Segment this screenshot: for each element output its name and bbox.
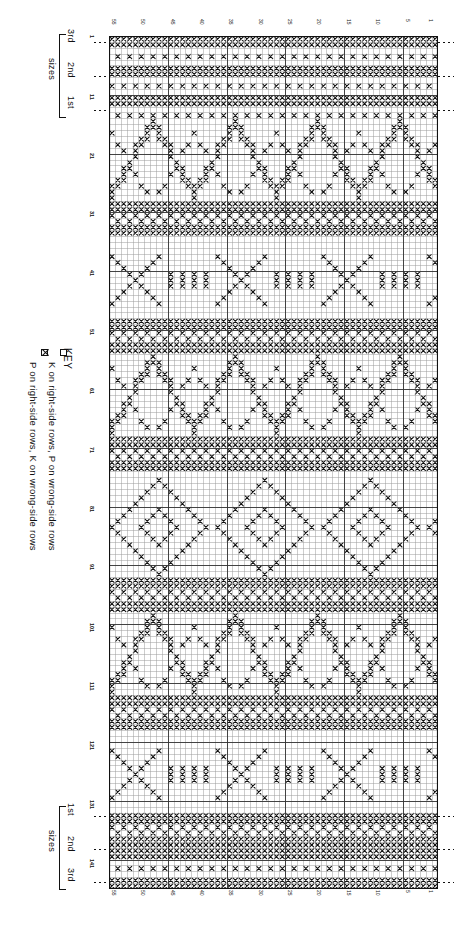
key-item-label-p: P on right-side rows, K on wrong-side ro… [28,362,39,551]
size-marker-2nd-bottom: 2nd [66,836,76,852]
stitch-chart-canvas[interactable] [109,36,438,889]
stitch-number-label: 40 [199,19,204,25]
stitch-number-label: 1 [428,19,433,22]
stitch-number-label: 1 [428,890,433,893]
stitch-number-label: 25 [287,19,292,25]
row-number-label: 21 [89,153,95,159]
stitch-number-label: 20 [316,19,321,25]
row-number-label: 11 [89,94,95,100]
sizes-label-top: sizes [47,58,57,80]
row-number-axis: 1112131415161718191101111121131141 [88,36,108,889]
stitch-number-label: 50 [140,19,145,25]
size-marker-1st-top: 1st [66,96,76,109]
key-item-label-k: K on right-side rows, P on wrong-side ro… [47,362,58,551]
stitch-number-label: 40 [199,890,204,896]
row-number-label: 131 [89,800,95,809]
size-dotline-1st-top-right [438,110,454,111]
sizes-label-bottom: sizes [47,830,57,852]
stitch-number-label: 25 [287,890,292,896]
row-number-label: 51 [89,329,95,335]
stitch-number-label: 50 [140,890,145,896]
stitch-number-label: 5 [405,19,410,22]
size-dotline-1st-bottom-right [438,816,454,817]
stitch-number-label: 55 [111,890,116,896]
key-symbol-empty-box-icon [60,349,67,356]
size-dotline-2nd-top-right [438,76,454,77]
row-number-label: 141 [89,859,95,868]
stitch-number-label: 45 [170,19,175,25]
stitch-number-axis-top: 1510152025303540455055 [109,18,438,36]
stitch-number-label: 55 [111,19,116,25]
row-number-label: 101 [89,623,95,632]
row-number-label: 81 [89,506,95,512]
size-marker-3rd-bottom: 3rd [66,868,76,882]
row-number-label: 111 [89,682,95,691]
row-number-label: 31 [89,211,95,217]
stitch-number-label: 45 [170,890,175,896]
row-number-label: 121 [89,741,95,750]
row-number-label: 61 [89,388,95,394]
stitch-number-label: 20 [316,890,321,896]
size-dotline-3rd-top-right [438,42,454,43]
size-marker-1st-bottom: 1st [66,803,76,816]
size-marker-3rd-top: 3rd [66,29,76,43]
size-marker-2nd-top: 2nd [66,62,76,78]
size-dotline-3rd-bottom-right [438,882,454,883]
stitch-number-label: 10 [375,890,380,896]
row-number-label: 1 [89,35,95,38]
stitch-number-label: 35 [228,890,233,896]
stitch-number-label: 10 [375,19,380,25]
stitch-number-axis-bottom: 1510152025303540455055 [109,889,438,907]
stitch-number-label: 5 [405,890,410,893]
stitch-number-label: 30 [258,890,263,896]
stitch-number-label: 35 [228,19,233,25]
row-number-label: 71 [89,447,95,453]
key-symbol-crossed-box-icon [41,349,48,356]
row-number-label: 41 [89,270,95,276]
key-title: KEY [62,348,73,369]
stitch-number-label: 15 [346,890,351,896]
size-dotline-2nd-bottom-right [438,849,454,850]
stitch-number-label: 15 [346,19,351,25]
stitch-number-label: 30 [258,19,263,25]
row-number-label: 91 [89,564,95,570]
stitch-chart[interactable] [109,36,438,889]
